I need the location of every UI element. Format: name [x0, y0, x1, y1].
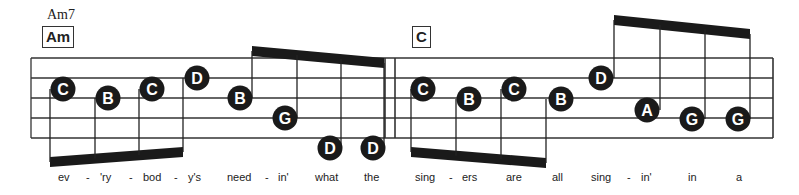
lyric-hyphen: - — [265, 171, 269, 183]
beam — [411, 147, 546, 168]
lyric-syllable: 'ry — [100, 171, 111, 183]
beam — [614, 15, 750, 39]
lyric-syllable: bod — [143, 171, 161, 183]
lyric-hyphen: - — [449, 171, 453, 183]
note-label: A — [641, 102, 653, 119]
note-label: B — [102, 90, 114, 107]
note-label: B — [463, 91, 475, 108]
lyric-syllable: ev — [58, 171, 70, 183]
lyric-syllable: sing — [591, 171, 611, 183]
note-label: D — [191, 70, 203, 87]
lyric-hyphen: - — [627, 171, 631, 183]
note-label: B — [555, 91, 567, 108]
lyric-syllable: a — [736, 171, 742, 183]
music-staff: CBCDBGDDCBCBDAGG — [0, 0, 799, 195]
lyric-syllable: need — [227, 171, 251, 183]
note-label: C — [417, 81, 429, 98]
note-label: D — [595, 70, 607, 87]
beam — [50, 147, 183, 167]
note-label: G — [279, 110, 291, 127]
note-label: B — [234, 90, 246, 107]
lyric-syllable: what — [315, 171, 338, 183]
lyric-syllable: are — [506, 171, 522, 183]
lyric-syllable: in' — [278, 171, 289, 183]
lyric-syllable: all — [552, 171, 563, 183]
lyric-syllable: the — [364, 171, 379, 183]
chord-box-c: C — [412, 26, 431, 48]
lyric-syllable: sing — [415, 171, 435, 183]
chord-name-am7: Am7 — [47, 7, 75, 23]
note-label: G — [732, 111, 744, 128]
beam — [252, 46, 384, 68]
lyric-hyphen: - — [174, 171, 178, 183]
chord-box-am: Am — [42, 26, 74, 48]
lyric-syllable: in — [688, 171, 697, 183]
lyric-hyphen: - — [86, 171, 90, 183]
lyric-syllable: y's — [188, 171, 201, 183]
lyric-syllable: in' — [641, 171, 652, 183]
note-label: C — [57, 81, 69, 98]
note-label: G — [686, 111, 698, 128]
note-label: C — [508, 81, 520, 98]
lyric-hyphen: - — [129, 171, 133, 183]
note-label: C — [146, 81, 158, 98]
lyric-syllable: ers — [462, 171, 477, 183]
note-label: D — [367, 140, 379, 157]
note-label: D — [324, 140, 336, 157]
